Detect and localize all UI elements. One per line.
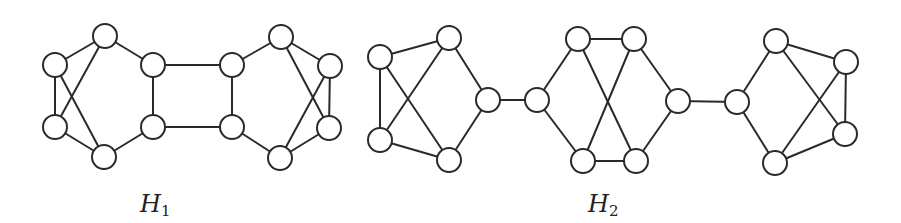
graph-vertex-circle <box>92 145 116 169</box>
graph-vertex-circle <box>268 146 292 170</box>
graph-vertex-circle <box>368 45 392 69</box>
graph-vertex-circle <box>833 122 857 146</box>
label-subscript: 1 <box>161 202 171 220</box>
graph-vertex-circle <box>437 148 461 172</box>
graph-vertex-circle <box>624 149 648 173</box>
graph-vertex-circle <box>317 116 341 140</box>
graph-vertex-circle <box>43 115 67 139</box>
graph-vertex-circle <box>43 53 67 77</box>
graph-vertex-circle <box>571 149 595 173</box>
graph-label-h2: H2 <box>588 192 618 219</box>
graph-vertex-circle <box>764 29 788 53</box>
graph-edge <box>280 66 330 158</box>
graph-vertex-circle <box>476 88 500 112</box>
graph-vertex-circle <box>834 50 858 74</box>
graph-figure <box>0 0 901 223</box>
graph-vertex-circle <box>525 88 549 112</box>
nodes-layer <box>43 24 858 175</box>
graph-vertex-circle <box>437 26 461 50</box>
graph-vertex-circle <box>141 53 165 77</box>
graph-vertex-circle <box>368 128 392 152</box>
graph-vertex-circle <box>141 115 165 139</box>
graph-edge <box>55 65 104 157</box>
label-main: H <box>588 190 609 218</box>
graph-vertex-circle <box>93 24 117 48</box>
graph-vertex-circle <box>220 53 244 77</box>
graph-vertex-circle <box>269 25 293 49</box>
graph-vertex-circle <box>666 89 690 113</box>
graph-vertex-circle <box>622 27 646 51</box>
graph-edge <box>776 41 845 134</box>
graph-vertex-circle <box>318 54 342 78</box>
graph-label-h1: H1 <box>140 192 170 219</box>
graph-vertex-circle <box>566 27 590 51</box>
label-subscript: 2 <box>609 202 619 220</box>
graph-vertex-circle <box>763 151 787 175</box>
label-main: H <box>140 190 161 218</box>
graph-vertex-circle <box>725 90 749 114</box>
graph-vertex-circle <box>220 115 244 139</box>
